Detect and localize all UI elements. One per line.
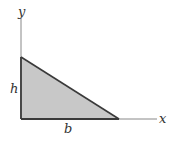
height-label: h [10,81,18,96]
base-label: b [64,121,72,136]
triangle-diagram: y x h b [0,0,175,149]
x-axis-label: x [159,111,167,126]
y-axis-label: y [17,4,26,19]
